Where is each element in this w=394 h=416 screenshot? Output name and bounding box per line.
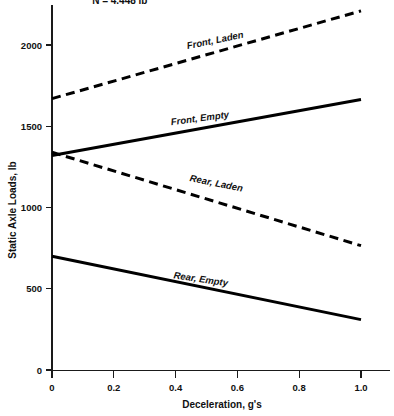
x-axis-title: Deceleration, g's bbox=[182, 399, 262, 410]
y-tick-label: 1000 bbox=[21, 202, 42, 213]
chart-annotations: N = 4.448 lb bbox=[92, 0, 147, 6]
series-line-rear-empty bbox=[52, 256, 361, 319]
y-tick-label: 0 bbox=[37, 365, 42, 376]
x-tick-label: 0.6 bbox=[231, 382, 244, 393]
x-tick-label: 0.8 bbox=[293, 382, 306, 393]
x-tick-label: 1.0 bbox=[354, 382, 367, 393]
x-tick-label: 0.4 bbox=[169, 382, 183, 393]
series-line-front-laden bbox=[52, 11, 361, 99]
x-tick-label: 0 bbox=[49, 382, 54, 393]
series-line-front-empty bbox=[52, 99, 361, 155]
series-label-rear-laden: Rear, Laden bbox=[189, 172, 244, 194]
y-tick-label: 2000 bbox=[21, 40, 42, 51]
chart-annotation-n-value: N = 4.448 lb bbox=[92, 0, 147, 6]
series-line-rear-laden bbox=[52, 152, 361, 245]
y-axis-title: Static Axle Loads, lb bbox=[7, 161, 18, 258]
y-axis-ticks: 0500100015002000 bbox=[21, 40, 52, 376]
chart-series-labels: Front, LadenFront, EmptyRear, LadenRear,… bbox=[170, 29, 244, 289]
static-axle-loads-line-chart: 0500100015002000 00.20.40.60.81.0 Front,… bbox=[0, 0, 394, 416]
chart-figure: 0500100015002000 00.20.40.60.81.0 Front,… bbox=[0, 0, 394, 416]
x-axis-ticks: 00.20.40.60.81.0 bbox=[49, 371, 367, 393]
x-tick-label: 0.2 bbox=[107, 382, 120, 393]
y-tick-label: 1500 bbox=[21, 121, 42, 132]
y-tick-label: 500 bbox=[26, 283, 42, 294]
